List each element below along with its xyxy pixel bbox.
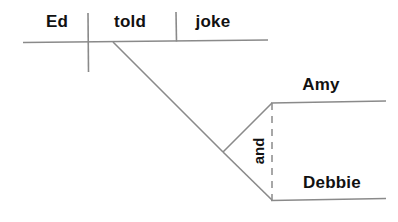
word-conjunction: and [251,138,266,165]
word-indirect-object-debbie: Debbie [303,174,361,191]
subject-verb-divider [88,13,89,72]
baseline-main [23,40,268,43]
word-verb: told [114,13,146,30]
indirect-object-line-debbie [271,199,386,201]
word-subject: Ed [46,13,68,30]
word-direct-object: joke [196,13,231,30]
indirect-object-slant-upper [113,42,223,152]
word-indirect-object-amy: Amy [302,76,339,93]
sentence-diagram: Ed told joke Amy Debbie and [0,0,398,222]
verb-object-divider [176,12,177,42]
indirect-object-line-amy [271,101,386,103]
